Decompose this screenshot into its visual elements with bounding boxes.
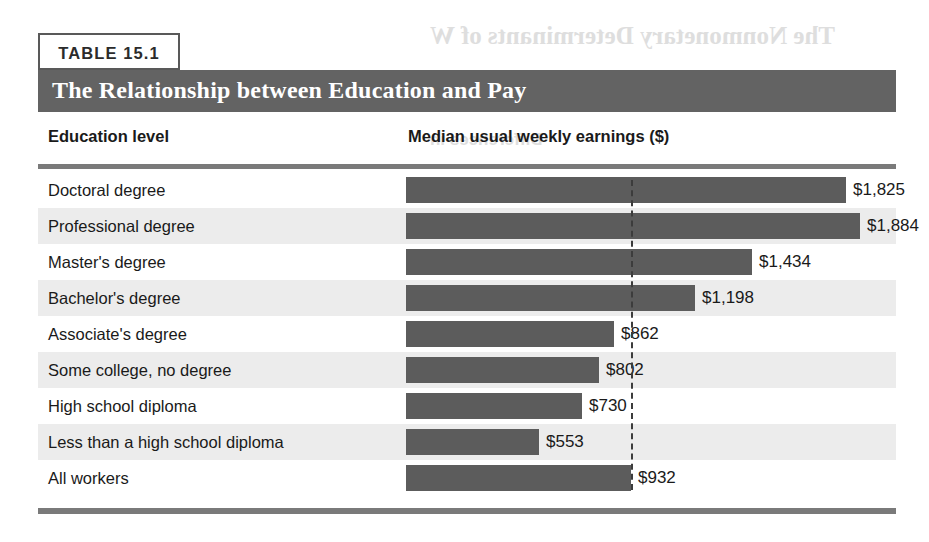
header-rule-divider [38, 164, 896, 169]
row-label-education-level: All workers [48, 469, 129, 488]
table-row: Master's degree$1,434 [38, 244, 896, 280]
bar-value-label: $802 [606, 360, 644, 380]
table-number-badge: TABLE 15.1 [38, 33, 180, 70]
table-row: Less than a high school diploma$553 [38, 424, 896, 460]
row-label-education-level: Less than a high school diploma [48, 433, 284, 452]
table-number-label: TABLE 15.1 [40, 44, 178, 63]
table-title: The Relationship between Education and P… [52, 77, 526, 104]
table-figure: The Nonmonetary Determinants of W Differ… [0, 0, 929, 542]
reference-line-all-workers [631, 180, 633, 490]
bar-chart-body: Doctoral degree$1,825Professional degree… [38, 172, 896, 496]
bar-value-label: $1,198 [702, 288, 754, 308]
ghost-text-line1: The Nonmonetary Determinants of W [430, 22, 835, 50]
table-row: Associate's degree$862 [38, 316, 896, 352]
table-row: Professional degree$1,884 [38, 208, 896, 244]
bar-earnings [406, 393, 582, 419]
table-row: All workers$932 [38, 460, 896, 496]
bar-value-label: $553 [546, 432, 584, 452]
row-label-education-level: Bachelor's degree [48, 289, 180, 308]
bar-earnings [406, 213, 860, 239]
bottom-rule-divider [38, 508, 896, 514]
bar-earnings [406, 429, 539, 455]
bar-value-label: $932 [638, 468, 676, 488]
row-label-education-level: Professional degree [48, 217, 195, 236]
row-label-education-level: Master's degree [48, 253, 166, 272]
column-header-education-level: Education level [48, 127, 169, 146]
bar-earnings [406, 357, 599, 383]
table-row: High school diploma$730 [38, 388, 896, 424]
bar-value-label: $730 [589, 396, 627, 416]
column-header-row: Education level Median usual weekly earn… [38, 120, 896, 158]
bar-value-label: $1,825 [853, 180, 905, 200]
table-row: Bachelor's degree$1,198 [38, 280, 896, 316]
column-header-median-earnings: Median usual weekly earnings ($) [408, 127, 669, 146]
table-title-band: The Relationship between Education and P… [38, 70, 896, 112]
bar-value-label: $1,884 [867, 216, 919, 236]
row-label-education-level: Associate's degree [48, 325, 187, 344]
table-row: Some college, no degree$802 [38, 352, 896, 388]
bar-value-label: $1,434 [759, 252, 811, 272]
row-label-education-level: Some college, no degree [48, 361, 231, 380]
bar-earnings [406, 465, 631, 491]
bar-earnings [406, 321, 614, 347]
bar-earnings [406, 249, 752, 275]
bar-earnings [406, 177, 846, 203]
row-label-education-level: Doctoral degree [48, 181, 165, 200]
table-row: Doctoral degree$1,825 [38, 172, 896, 208]
row-label-education-level: High school diploma [48, 397, 197, 416]
bar-earnings [406, 285, 695, 311]
bar-value-label: $862 [621, 324, 659, 344]
